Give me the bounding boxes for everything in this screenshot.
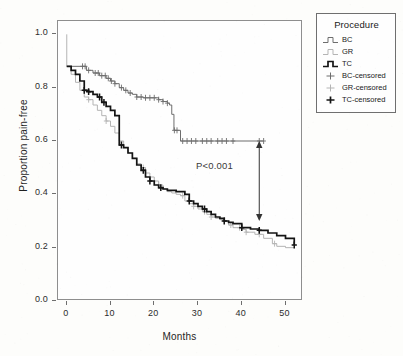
x-tick-mark — [66, 301, 67, 305]
censor-tick — [103, 73, 108, 79]
legend-item-label: GR — [342, 47, 353, 56]
censor-tick — [106, 75, 111, 81]
plus-marker-bold-icon — [322, 95, 339, 105]
y-tick-mark — [52, 33, 56, 34]
censor-tick — [82, 87, 87, 94]
survival-curves — [58, 21, 303, 301]
censor-tick — [86, 97, 91, 103]
arrow-head — [256, 141, 262, 148]
curve-line-bc — [67, 66, 264, 141]
y-axis-label: Proportion pain-free — [18, 71, 29, 221]
censor-tick — [244, 229, 249, 235]
censor-tick — [261, 138, 266, 144]
censor-tick — [180, 138, 185, 144]
censor-tick — [152, 95, 157, 101]
x-tick-mark — [285, 301, 286, 305]
censor-tick — [194, 138, 199, 144]
x-tick-mark — [110, 301, 111, 305]
censor-tick — [200, 138, 205, 144]
y-tick-label: 0.0 — [22, 294, 48, 304]
x-tick-label: 0 — [55, 308, 77, 318]
legend-title: Procedure — [322, 19, 391, 30]
x-tick-label: 30 — [186, 308, 208, 318]
censor-tick — [209, 138, 214, 144]
legend-items: BCGRTCBC-censoredGR-censoredTC-censored — [322, 34, 391, 105]
legend-item-label: TC — [342, 59, 352, 68]
legend-item-label: BC — [342, 35, 352, 44]
y-tick-mark — [52, 247, 56, 248]
curve-tc — [67, 66, 297, 248]
censor-tick — [134, 94, 139, 100]
censor-tick — [104, 118, 109, 124]
censor-tick — [185, 138, 190, 144]
x-tick-label: 10 — [99, 308, 121, 318]
x-tick-label: 50 — [274, 308, 296, 318]
censor-tick — [175, 127, 180, 133]
arrow-head — [256, 214, 262, 221]
y-tick-mark — [52, 140, 56, 141]
plot-area — [57, 20, 302, 300]
censor-tick — [148, 95, 153, 101]
step-line-bold-icon — [322, 59, 339, 69]
x-tick-label: 20 — [142, 308, 164, 318]
y-tick-mark — [52, 300, 56, 301]
curve-bc — [67, 63, 266, 144]
plus-marker-icon — [322, 71, 339, 81]
censor-tick — [220, 138, 225, 144]
censor-tick — [139, 94, 144, 100]
x-axis-label: Months — [57, 331, 302, 342]
legend-item-gr-censored[interactable]: GR-censored — [322, 82, 391, 93]
step-line-icon — [322, 47, 339, 57]
censor-tick — [124, 87, 129, 93]
legend-item-bc[interactable]: BC — [322, 34, 391, 45]
y-tick-mark — [52, 193, 56, 194]
chart-canvas: 1.00.80.60.40.20.001020304050 Proportion… — [0, 0, 403, 356]
censor-tick — [86, 67, 91, 73]
censor-tick — [189, 138, 194, 144]
difference-arrow — [256, 141, 262, 221]
x-tick-label: 40 — [230, 308, 252, 318]
censor-tick — [224, 138, 229, 144]
censor-tick — [113, 81, 118, 87]
plus-marker-icon — [322, 83, 339, 93]
censor-tick — [128, 90, 133, 96]
x-tick-mark — [153, 301, 154, 305]
step-line-icon — [322, 35, 339, 45]
censor-tick — [109, 78, 114, 84]
legend-item-label: BC-censored — [342, 71, 386, 80]
y-tick-mark — [52, 87, 56, 88]
legend-item-label: TC-censored — [342, 95, 385, 104]
censor-tick — [143, 95, 148, 101]
legend-item-tc-censored[interactable]: TC-censored — [322, 94, 391, 105]
censor-tick — [215, 138, 220, 144]
legend-box: Procedure BCGRTCBC-censoredGR-censoredTC… — [316, 13, 396, 113]
censor-tick — [119, 85, 124, 91]
y-tick-label: 1.0 — [22, 27, 48, 37]
censor-tick — [231, 138, 236, 144]
y-tick-label: 0.2 — [22, 241, 48, 251]
censor-tick — [204, 138, 209, 144]
x-tick-mark — [241, 301, 242, 305]
legend-item-bc-censored[interactable]: BC-censored — [322, 70, 391, 81]
legend-item-gr[interactable]: GR — [322, 46, 391, 57]
p-value-annotation: P<0.001 — [196, 160, 233, 171]
censor-tick — [147, 178, 152, 185]
censor-tick — [272, 241, 277, 247]
legend-item-tc[interactable]: TC — [322, 58, 391, 69]
censor-tick — [257, 227, 262, 234]
legend-item-label: GR-censored — [342, 83, 387, 92]
x-tick-mark — [197, 301, 198, 305]
censor-tick — [86, 88, 91, 95]
